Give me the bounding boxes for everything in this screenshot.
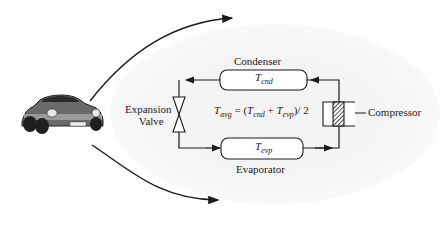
eq-plus: +: [265, 104, 277, 116]
cnd-subscript: cnd: [261, 77, 273, 86]
condenser-label: Condenser: [234, 56, 281, 68]
eq-lhs-sub: avg: [220, 110, 232, 119]
lower-arrow: [92, 145, 218, 200]
compressor-label: Compressor: [368, 107, 421, 119]
eq-t2-sub: evp: [283, 110, 294, 119]
upper-arrow: [90, 18, 232, 101]
eq-tail: )/ 2: [294, 104, 309, 116]
eq-t1-sub: cnd: [253, 110, 265, 119]
evaporator-temperature: Tevp: [255, 141, 272, 153]
expansion-label-line2: Valve: [125, 116, 171, 128]
evaporator-label: Evaporator: [236, 164, 285, 176]
compressor-icon: [323, 102, 366, 126]
condenser-temperature: Tcnd: [255, 72, 273, 84]
expansion-label-line1: Expansion: [125, 104, 171, 116]
diagram-canvas: Condenser Tcnd Tevp Evaporator Expansion…: [0, 0, 441, 232]
average-temperature-equation: Tavg = (Tcnd + Tevp)/ 2: [214, 105, 309, 117]
eq-equals: = (: [232, 104, 247, 116]
evp-subscript: evp: [261, 146, 272, 155]
expansion-valve-icon: [173, 97, 185, 132]
eq-t2: T: [276, 104, 282, 116]
expansion-valve-label: Expansion Valve: [125, 104, 171, 127]
